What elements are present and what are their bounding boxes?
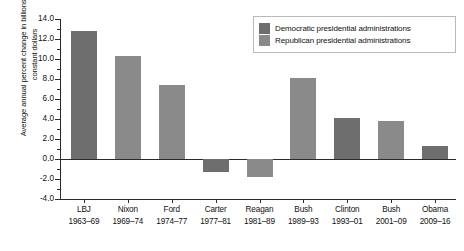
y-tick-label: 4.0 xyxy=(14,114,54,123)
x-category-years: 1974–77 xyxy=(147,216,197,228)
x-category-years: 1977–81 xyxy=(191,216,241,228)
y-tick-minor xyxy=(57,169,60,170)
y-axis-tick-labels: 14.012.010.08.06.04.02.00.0-2.0-4.0 xyxy=(14,19,54,200)
y-tick xyxy=(55,79,60,80)
bar xyxy=(71,31,97,159)
x-category-label: Bush1989–93 xyxy=(278,204,328,227)
y-tick-label: 6.0 xyxy=(14,94,54,103)
x-category-years: 1989–93 xyxy=(278,216,328,228)
x-category-years: 1969–74 xyxy=(103,216,153,228)
x-category-name: LBJ xyxy=(59,204,109,216)
legend-label-democratic: Democratic presidential administrations xyxy=(275,24,411,33)
x-tick xyxy=(216,199,217,203)
bar xyxy=(290,78,316,159)
x-category-name: Bush xyxy=(278,204,328,216)
y-tick-minor xyxy=(57,129,60,130)
y-tick-label: -2.0 xyxy=(14,174,54,183)
bar xyxy=(422,146,448,159)
x-category-years: 1981–89 xyxy=(235,216,285,228)
x-tick xyxy=(347,199,348,203)
y-axis-line xyxy=(60,19,61,200)
y-tick-label: 12.0 xyxy=(14,34,54,43)
x-tick xyxy=(128,199,129,203)
x-category-label: Carter1977–81 xyxy=(191,204,241,227)
y-tick-label: 8.0 xyxy=(14,74,54,83)
y-tick-minor xyxy=(57,149,60,150)
x-category-name: Obama xyxy=(410,204,460,216)
x-category-name: Clinton xyxy=(322,204,372,216)
x-tick xyxy=(84,199,85,203)
y-tick-label: -4.0 xyxy=(14,194,54,203)
y-tick xyxy=(55,19,60,20)
bar xyxy=(247,159,273,177)
x-category-label: Obama2009–16 xyxy=(410,204,460,227)
x-category-name: Carter xyxy=(191,204,241,216)
y-tick xyxy=(55,59,60,60)
x-category-label: Nixon1969–74 xyxy=(103,204,153,227)
y-tick-minor xyxy=(57,109,60,110)
x-category-label: Clinton1993–01 xyxy=(322,204,372,227)
y-tick-minor xyxy=(57,69,60,70)
x-axis-line xyxy=(60,199,456,200)
x-category-name: Nixon xyxy=(103,204,153,216)
legend-swatch-democratic xyxy=(259,23,270,34)
y-tick xyxy=(55,119,60,120)
y-tick-label: 0.0 xyxy=(14,154,54,163)
y-tick xyxy=(55,139,60,140)
legend-item-democratic: Democratic presidential administrations xyxy=(259,23,450,34)
x-category-years: 1963–69 xyxy=(59,216,109,228)
x-category-years: 2001–09 xyxy=(366,216,416,228)
y-tick-minor xyxy=(57,189,60,190)
x-category-label: Ford1974–77 xyxy=(147,204,197,227)
bar xyxy=(115,56,141,159)
bar xyxy=(378,121,404,159)
bar-chart: Average annual percent change in billion… xyxy=(0,0,464,251)
x-tick xyxy=(260,199,261,203)
x-category-label: LBJ1963–69 xyxy=(59,204,109,227)
y-tick xyxy=(55,99,60,100)
x-tick xyxy=(435,199,436,203)
x-axis-category-labels: LBJ1963–69Nixon1969–74Ford1974–77Carter1… xyxy=(60,204,456,236)
x-category-name: Ford xyxy=(147,204,197,216)
bar xyxy=(203,159,229,172)
legend-label-republican: Republican presidential administrations xyxy=(275,36,410,45)
y-tick xyxy=(55,39,60,40)
y-tick-label: 2.0 xyxy=(14,134,54,143)
y-tick xyxy=(55,159,60,160)
legend: Democratic presidential administrations … xyxy=(253,16,456,53)
x-category-name: Bush xyxy=(366,204,416,216)
y-tick-minor xyxy=(57,49,60,50)
y-tick-minor xyxy=(57,29,60,30)
y-tick-label: 10.0 xyxy=(14,54,54,63)
y-tick-label: 14.0 xyxy=(14,14,54,23)
bar xyxy=(159,85,185,159)
x-category-years: 2009–16 xyxy=(410,216,460,228)
x-tick xyxy=(172,199,173,203)
y-tick xyxy=(55,179,60,180)
x-category-label: Reagan1981–89 xyxy=(235,204,285,227)
legend-swatch-republican xyxy=(259,35,270,46)
x-category-name: Reagan xyxy=(235,204,285,216)
y-tick-minor xyxy=(57,89,60,90)
legend-item-republican: Republican presidential administrations xyxy=(259,35,450,46)
x-category-years: 1993–01 xyxy=(322,216,372,228)
bar xyxy=(334,118,360,159)
x-tick xyxy=(391,199,392,203)
y-tick xyxy=(55,199,60,200)
x-tick xyxy=(303,199,304,203)
x-category-label: Bush2001–09 xyxy=(366,204,416,227)
